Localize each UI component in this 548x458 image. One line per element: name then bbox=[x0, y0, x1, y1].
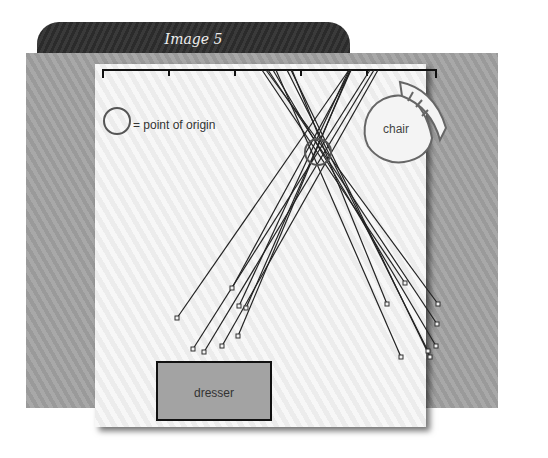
strings-left bbox=[177, 70, 378, 352]
endpoint-markers bbox=[175, 281, 440, 359]
chair-label: chair bbox=[383, 122, 409, 136]
dresser-label: dresser bbox=[157, 386, 271, 400]
legend-label: = point of origin bbox=[133, 118, 215, 132]
blood-spatter-diagram bbox=[0, 0, 548, 458]
legend-circle-icon bbox=[104, 108, 130, 134]
